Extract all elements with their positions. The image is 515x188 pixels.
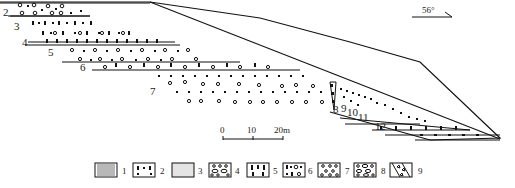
legend-swatch-9 (390, 163, 412, 177)
legend-number-6: 6 (308, 166, 313, 176)
scale-tick-0: 0 (220, 125, 225, 135)
layer-label-12: 12 (375, 120, 386, 132)
layer-3-pattern (32, 21, 130, 35)
layer-label-10: 10 (347, 106, 359, 118)
scale-bar: 0 10 20m (220, 125, 290, 140)
dip-angle-label: 56° (422, 5, 435, 15)
layer-label-7: 7 (150, 85, 156, 97)
scale-tick-20m: 20m (274, 125, 290, 135)
layer-6-pattern (103, 65, 269, 68)
legend-number-3: 3 (198, 166, 203, 176)
layer-label-6: 6 (80, 61, 86, 73)
legend-swatch-6 (283, 163, 305, 177)
legend-number-7: 7 (345, 166, 350, 176)
legend-swatch-3 (172, 163, 194, 177)
layer-label-2: 2 (3, 6, 9, 18)
layer-3-circles (53, 31, 124, 34)
legend-numbers: 1 2 3 4 5 6 7 8 9 (122, 166, 423, 176)
legend-number-2: 2 (160, 166, 165, 176)
legend-swatch-7 (318, 163, 340, 177)
legend-number-8: 8 (381, 166, 386, 176)
layer-label-11: 11 (358, 111, 369, 123)
layer-label-5: 5 (48, 46, 54, 58)
layer-label-8: 8 (333, 103, 339, 115)
geological-cross-section: 2 3 4 5 6 7 8 9 10 11 12 56° 0 10 20m (0, 0, 515, 188)
legend-swatch-1 (95, 163, 117, 177)
legend (95, 163, 412, 177)
legend-swatch-8 (354, 163, 376, 177)
layer-7-circles (168, 80, 323, 103)
legend-number-4: 4 (235, 166, 240, 176)
legend-swatch-2 (133, 163, 155, 177)
layer-label-4: 4 (22, 36, 28, 48)
legend-number-9: 9 (418, 166, 423, 176)
legend-number-5: 5 (273, 166, 278, 176)
legend-swatch-4 (209, 163, 231, 177)
layer-label-3: 3 (14, 20, 20, 32)
legend-swatch-5 (247, 163, 269, 177)
scale-tick-10: 10 (247, 125, 257, 135)
dip-indicator: 56° (412, 5, 452, 17)
legend-number-1: 1 (122, 166, 127, 176)
